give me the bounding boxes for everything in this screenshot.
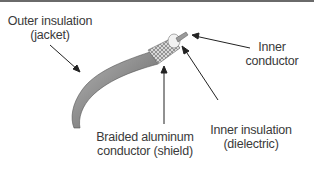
label-line: Braided aluminum xyxy=(95,130,195,144)
label-line: conductor (shield) xyxy=(95,144,195,158)
arrow-inner-insulation xyxy=(185,50,218,100)
label-line: (dielectric) xyxy=(210,137,292,151)
label-line: Outer insulation xyxy=(5,14,95,28)
label-outer-insulation: Outer insulation (jacket) xyxy=(5,14,95,42)
label-inner-insulation: Inner insulation (dielectric) xyxy=(210,123,292,151)
label-inner-conductor: Inner conductor xyxy=(242,40,302,68)
label-line: Inner xyxy=(242,40,302,54)
arrow-outer-insulation xyxy=(50,45,78,70)
label-braided-shield: Braided aluminum conductor (shield) xyxy=(95,130,195,158)
inner-conductor-shape xyxy=(176,32,188,42)
label-line: conductor xyxy=(242,54,302,68)
label-line: Inner insulation xyxy=(210,123,292,137)
label-line: (jacket) xyxy=(5,28,95,42)
outer-jacket xyxy=(72,52,158,128)
